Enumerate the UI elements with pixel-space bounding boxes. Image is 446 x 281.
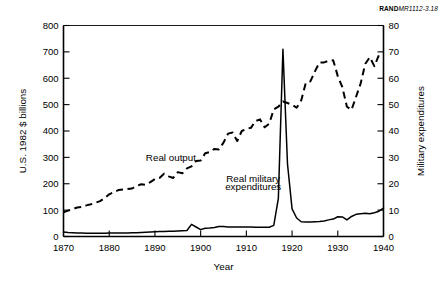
series-annotations: Real outputReal militaryexpenditures [146,152,281,192]
chart-frame [64,26,384,237]
left-tick-label: 300 [43,152,59,163]
figure-id-prefix: RAND [379,5,398,12]
x-axis-ticks [109,231,338,237]
right-tick-label: 70 [389,46,400,57]
x-tick-label: 1940 [373,242,394,253]
right-tick-label: 60 [389,73,400,84]
left-tick-label: 600 [43,73,59,84]
right-tick-label: 10 [389,205,400,216]
left-axis-ticks [64,26,70,237]
right-tick-label: 80 [389,20,400,31]
left-tick-label: 800 [43,20,59,31]
right-axis-tick-labels: 01020304050607080 [389,20,400,242]
x-tick-label: 1890 [144,242,165,253]
left-tick-label: 200 [43,178,59,189]
right-tick-label: 20 [389,178,400,189]
real-output-label: Real output [146,152,196,163]
figure-id-number: MR1112-3.18 [398,5,438,12]
x-axis-title: Year [214,261,235,272]
data-series-group [64,49,384,233]
x-tick-label: 1900 [190,242,211,253]
left-tick-label: 100 [43,205,59,216]
left-axis-tick-labels: 0100200300400500600700800 [43,20,59,242]
left-tick-label: 700 [43,46,59,57]
figure-container: RANDMR1112-3.18 010020030040050060070080… [0,0,446,281]
right-tick-label: 40 [389,125,400,136]
left-tick-label: 0 [53,231,58,242]
x-tick-label: 1870 [53,242,74,253]
right-tick-label: 0 [389,231,394,242]
figure-id-caption: RANDMR1112-3.18 [379,5,438,12]
right-tick-label: 50 [389,99,400,110]
right-axis-title: Military expenditures [415,86,426,176]
x-axis-tick-labels: 18701880189019001910192019301940 [53,242,394,253]
x-tick-label: 1910 [236,242,257,253]
x-tick-label: 1880 [99,242,120,253]
series-real-output [64,55,384,213]
x-tick-label: 1920 [282,242,303,253]
right-tick-label: 30 [389,152,400,163]
left-tick-label: 500 [43,99,59,110]
left-tick-label: 400 [43,125,59,136]
left-axis-title: U.S. 1982 $ billions [17,89,28,174]
x-tick-label: 1930 [327,242,348,253]
real-military-label-line2: expenditures [225,181,281,192]
line-chart: 0100200300400500600700800 01020304050607… [0,0,446,281]
